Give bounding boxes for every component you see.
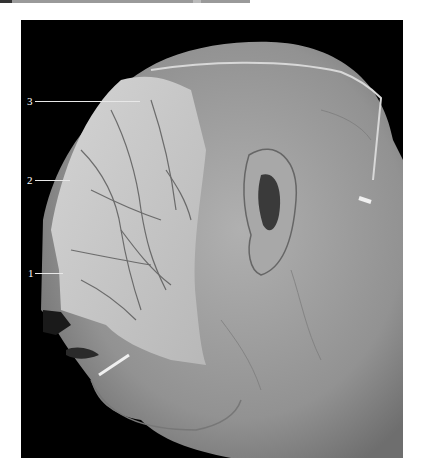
leader-line-1 [35,273,63,274]
top-border-accent [0,0,12,3]
head-dissection-illustration [21,20,403,458]
top-border-bar [0,0,250,3]
label-3: 3 [27,96,33,107]
top-border-mark [193,0,201,3]
label-2: 2 [27,175,33,186]
leader-line-3 [35,101,140,102]
label-1: 1 [28,268,34,279]
leader-line-2 [35,180,70,181]
anatomical-photo [21,20,403,458]
